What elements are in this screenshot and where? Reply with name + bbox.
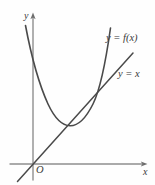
origin-label: O: [36, 165, 44, 176]
curve-label-fx: y = f(x): [106, 33, 138, 44]
figure-canvas: [0, 0, 155, 185]
line-label-yx: y = x: [118, 69, 140, 80]
y-axis-label: y: [24, 11, 28, 21]
math-figure: y = f(x) y = x x y O: [0, 0, 155, 185]
function-curve-fx: [26, 26, 111, 126]
x-axis-label: x: [143, 167, 147, 177]
identity-line-yx: [18, 53, 134, 182]
y-axis: [30, 13, 35, 181]
